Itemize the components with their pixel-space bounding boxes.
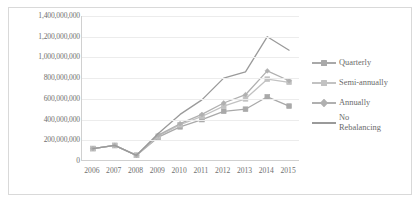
gridline [82,37,299,38]
series-line [93,97,289,156]
gridline [82,120,299,121]
series-line [93,79,289,155]
legend-swatch-icon [312,98,336,108]
series-line [93,37,289,156]
legend-item-label: No Rebalancing [339,113,381,132]
series-semi-annually [91,77,292,158]
plot-area [81,16,299,161]
y-axis-tick-label: 400,000,000 [8,116,80,124]
y-axis-tick-label: 1,000,000,000 [8,53,80,61]
series-annually [91,68,292,157]
legend-swatch-icon [312,78,336,88]
legend-item-label: Quarterly [339,58,371,68]
series-line [93,71,289,155]
gridline [82,57,299,58]
y-axis-tick-label: 600,000,000 [8,95,80,103]
legend-item-label: Semi-annually [339,78,388,88]
legend-item-semi-annually[interactable]: Semi-annually [312,76,388,90]
legend-item-annually[interactable]: Annually [312,96,370,110]
y-axis-tick-label: 200,000,000 [8,136,80,144]
data-point-marker [243,107,248,112]
data-point-marker [287,104,292,109]
y-axis-tick-label: 1,200,000,000 [8,33,80,41]
y-axis-tick-label: 800,000,000 [8,74,80,82]
chart-container: 0200,000,000400,000,000600,000,000800,00… [0,0,420,203]
chart-legend: QuarterlySemi-annuallyAnnuallyNo Rebalan… [312,56,414,140]
y-axis-tick-label: 0 [8,157,80,165]
series-no-rebalancing [93,37,289,156]
gridline [82,99,299,100]
legend-item-quarterly[interactable]: Quarterly [312,56,371,70]
series-layer [82,16,300,161]
x-axis-labels: 2006200720082009201020112012201320142015 [81,166,299,180]
y-axis-tick-label: 1,400,000,000 [8,12,80,20]
legend-item-label: Annually [339,98,370,108]
legend-swatch-icon [312,58,336,68]
gridline [82,140,299,141]
data-point-marker [221,109,226,114]
x-axis-tick-label: 2015 [275,166,301,176]
gridline [82,16,299,17]
legend-swatch-icon [312,118,336,128]
gridline [82,78,299,79]
legend-item-no-rebalancing[interactable]: No Rebalancing [312,116,381,130]
y-axis-labels: 0200,000,000400,000,000600,000,000800,00… [8,0,80,203]
